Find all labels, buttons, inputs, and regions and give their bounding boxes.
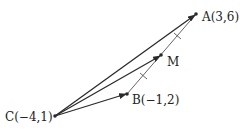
point-c: [53, 114, 57, 118]
point-m: [159, 53, 163, 57]
label-c: C(−4,1): [5, 110, 53, 124]
point-b: [125, 92, 129, 96]
point-a: [194, 12, 198, 16]
vector-diagram: A(3,6) M B(−1,2) C(−4,1): [0, 0, 242, 133]
vector-cm: [55, 56, 160, 116]
label-b: B(−1,2): [132, 93, 179, 107]
vector-cb: [55, 94, 126, 116]
label-m: M: [167, 55, 179, 69]
label-a: A(3,6): [201, 10, 239, 24]
